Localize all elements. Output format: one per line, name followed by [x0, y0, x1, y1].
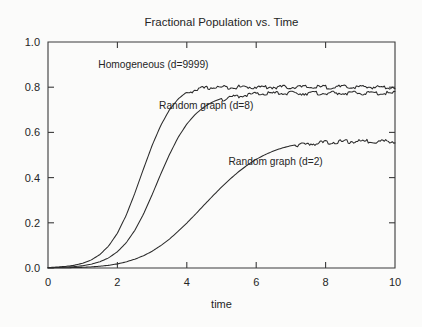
series-label-1: Homogeneous (d=9999) — [98, 59, 208, 70]
y-tick-label: 0.8 — [25, 81, 40, 93]
series-curve-3 — [48, 139, 395, 268]
x-tick-label: 8 — [323, 276, 329, 288]
x-tick-label: 6 — [253, 276, 259, 288]
series-label-2: Random graph (d=8) — [159, 100, 253, 111]
series-label-3: Random graph (d=2) — [228, 156, 322, 167]
y-tick-label: 1.0 — [25, 36, 40, 48]
x-tick-label: 4 — [184, 276, 190, 288]
x-tick-label: 10 — [389, 276, 401, 288]
y-tick-label: 0.6 — [25, 126, 40, 138]
series-curve-2 — [48, 91, 395, 268]
x-axis-title: time — [211, 298, 232, 310]
line-chart: 0.00.20.40.60.81.00246810Fractional Popu… — [0, 0, 422, 327]
chart-title: Fractional Population vs. Time — [144, 16, 298, 28]
series-curve-1 — [48, 85, 395, 267]
y-tick-label: 0.4 — [25, 172, 40, 184]
plot-frame — [48, 42, 395, 268]
x-tick-label: 2 — [114, 276, 120, 288]
y-tick-label: 0.2 — [25, 217, 40, 229]
y-tick-label: 0.0 — [25, 262, 40, 274]
chart-figure: 0.00.20.40.60.81.00246810Fractional Popu… — [0, 0, 422, 327]
x-tick-label: 0 — [45, 276, 51, 288]
